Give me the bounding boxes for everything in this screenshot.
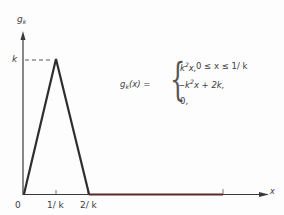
x-axis-arrow-icon: [259, 192, 269, 197]
y-axis-label: gk: [17, 14, 26, 25]
tick-label-1k: 1/ k: [47, 200, 64, 210]
x-axis-label: x: [270, 187, 275, 196]
figure: gk k x 0 1/ k 2/ k gk(x) = { k2x, 0 ≤ x …: [0, 0, 284, 215]
y-axis-arrow-icon: [21, 31, 26, 40]
case3-expression: 0,: [180, 96, 188, 106]
plot-area: [0, 0, 284, 215]
equation-lhs: gk(x) =: [120, 79, 150, 90]
curve-g-k: [24, 59, 89, 194]
origin-label: 0: [15, 200, 21, 210]
k-level-label: k: [12, 54, 17, 64]
case1-condition-text: 0 ≤ x ≤ 1/ k: [196, 61, 247, 71]
tick-label-2k: 2/ k: [80, 200, 97, 210]
case1-expression: k2x,: [180, 61, 197, 73]
case2-expression: −k2x + 2k,: [178, 78, 224, 90]
